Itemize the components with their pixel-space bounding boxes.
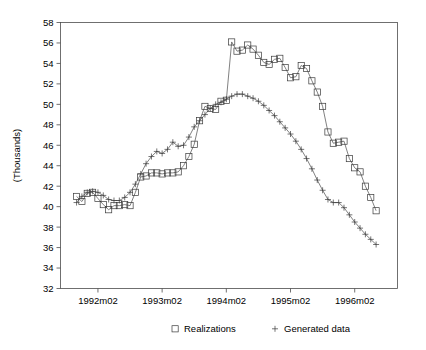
y-tick-label: 50: [43, 99, 54, 110]
time-series-chart: 3234363840424446485052545658 1992m021993…: [0, 0, 426, 350]
y-tick-label: 32: [43, 283, 54, 294]
y-tick-label: 42: [43, 181, 54, 192]
legend-label: Realizations: [184, 323, 236, 334]
y-tick-label: 54: [43, 58, 54, 69]
y-tick-label: 38: [43, 222, 54, 233]
y-tick-label: 48: [43, 119, 54, 130]
y-tick-label: 44: [43, 160, 54, 171]
y-tick-label: 46: [43, 140, 54, 151]
x-tick-label: 1994m02: [207, 295, 247, 306]
y-tick-label: 52: [43, 78, 54, 89]
x-tick-label: 1996m02: [335, 295, 375, 306]
x-tick-label: 1993m02: [142, 295, 182, 306]
y-tick-label: 58: [43, 17, 54, 28]
legend-label: Generated data: [284, 323, 351, 334]
legend-item-generated-data[interactable]: Generated data: [272, 323, 351, 334]
chart-container: 3234363840424446485052545658 1992m021993…: [0, 0, 426, 350]
y-tick-label: 36: [43, 242, 54, 253]
y-axis-title: (Thousands): [11, 129, 22, 182]
y-tick-label: 40: [43, 201, 54, 212]
x-tick-label: 1992m02: [78, 295, 118, 306]
y-tick-label: 56: [43, 37, 54, 48]
y-tick-label: 34: [43, 262, 54, 273]
x-tick-label: 1995m02: [271, 295, 311, 306]
y-axis-title-text: (Thousands): [11, 129, 22, 182]
